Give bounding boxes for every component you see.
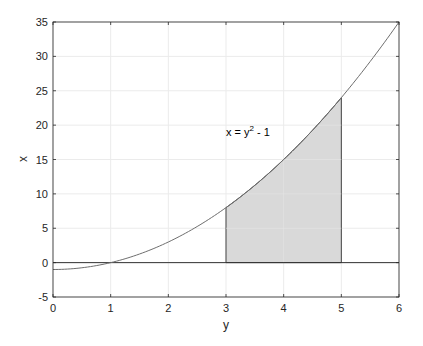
x-tick-label: 6 bbox=[396, 302, 402, 314]
ticks: 0123456-505101520253035 bbox=[36, 16, 402, 314]
y-tick-label: 15 bbox=[36, 154, 48, 166]
x-tick-label: 4 bbox=[281, 302, 287, 314]
x-tick-label: 5 bbox=[338, 302, 344, 314]
y-tick-label: -5 bbox=[38, 291, 48, 303]
x-tick-label: 2 bbox=[165, 302, 171, 314]
curve-annotation: x = y2 - 1 bbox=[226, 124, 270, 138]
x-axis-label: y bbox=[223, 318, 229, 332]
y-tick-label: 5 bbox=[42, 222, 48, 234]
y-tick-label: 10 bbox=[36, 188, 48, 200]
y-axis-label: x bbox=[16, 156, 30, 162]
x-tick-label: 0 bbox=[50, 302, 56, 314]
y-tick-label: 20 bbox=[36, 119, 48, 131]
y-tick-label: 25 bbox=[36, 85, 48, 97]
chart: 0123456-505101520253035 x = y2 - 1 y x bbox=[0, 0, 423, 346]
x-tick-label: 3 bbox=[223, 302, 229, 314]
x-tick-label: 1 bbox=[108, 302, 114, 314]
y-tick-label: 0 bbox=[42, 257, 48, 269]
y-tick-label: 30 bbox=[36, 50, 48, 62]
y-tick-label: 35 bbox=[36, 16, 48, 28]
